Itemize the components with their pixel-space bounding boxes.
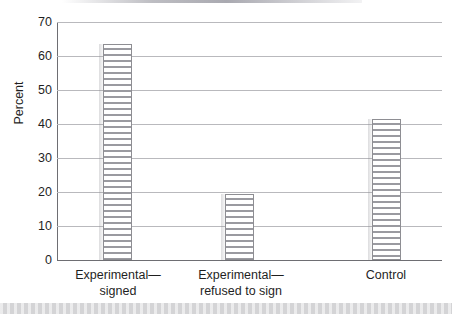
bar-control <box>372 119 401 260</box>
bar-experimental-refused <box>225 194 254 260</box>
x-label-line-1: Experimental— <box>166 268 316 284</box>
gridline-70 <box>57 22 442 23</box>
y-tick-0: 0 <box>6 254 52 266</box>
x-label-line-1: Control <box>311 268 452 284</box>
x-axis-baseline <box>57 260 442 261</box>
y-axis-tick-labels: 70 60 50 40 30 20 10 0 <box>0 22 52 260</box>
page-edge-band <box>0 303 452 314</box>
plot-area <box>57 22 442 260</box>
bar-experimental-signed <box>103 44 132 260</box>
cropped-title-remnant <box>62 0 362 3</box>
y-tick-30: 30 <box>6 152 52 164</box>
x-label-control: Control <box>311 268 452 284</box>
y-tick-70: 70 <box>6 16 52 28</box>
y-tick-10: 10 <box>6 220 52 232</box>
bar-chart-figure: 70 60 50 40 30 20 10 0 Percent Experimen… <box>0 0 452 314</box>
y-axis-title: Percent <box>12 58 26 148</box>
x-label-line-2: refused to sign <box>166 284 316 300</box>
x-label-experimental-refused: Experimental— refused to sign <box>166 268 316 299</box>
y-tick-20: 20 <box>6 186 52 198</box>
